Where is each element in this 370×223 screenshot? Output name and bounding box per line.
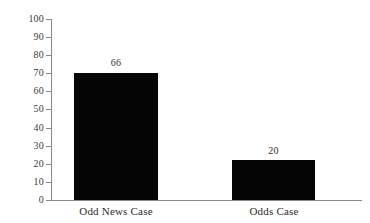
y-axis-tick-30: 30 bbox=[0, 141, 44, 151]
bar-value-label: 66 bbox=[74, 58, 158, 68]
y-axis-tick-80: 80 bbox=[0, 50, 44, 60]
y-axis-tick-label: 60 bbox=[2, 86, 44, 96]
y-axis-line bbox=[51, 19, 52, 200]
bar-odds-case bbox=[232, 160, 315, 200]
y-axis-tick-100: 100 bbox=[0, 14, 44, 24]
y-axis-tick-0: 0 bbox=[0, 195, 44, 205]
x-axis-category-label-odds-case: Odds Case bbox=[214, 205, 334, 217]
x-axis-line bbox=[51, 200, 362, 201]
y-axis-tick-70: 70 bbox=[0, 68, 44, 78]
y-axis-tick-label: 70 bbox=[2, 68, 44, 78]
y-axis-tick-20: 20 bbox=[0, 159, 44, 169]
y-axis-tick-label: 40 bbox=[2, 123, 44, 133]
y-axis-tick-10: 10 bbox=[0, 177, 44, 187]
y-axis-tick-label: 0 bbox=[2, 195, 44, 205]
y-axis-tick-label: 20 bbox=[2, 159, 44, 169]
y-axis-tick-90: 90 bbox=[0, 32, 44, 42]
bar-odd-news-case bbox=[74, 73, 158, 200]
y-axis-tick-label: 10 bbox=[2, 177, 44, 187]
y-axis-tick-label: 90 bbox=[2, 32, 44, 42]
y-axis-tick-label: 80 bbox=[2, 50, 44, 60]
y-axis-tick-label: 50 bbox=[2, 104, 44, 114]
bar-value-label: 20 bbox=[232, 146, 315, 156]
bar-chart: 100 90 80 70 60 50 40 30 bbox=[0, 0, 370, 223]
y-axis-tick-label: 100 bbox=[2, 14, 44, 24]
y-axis-tick-50: 50 bbox=[0, 104, 44, 114]
y-axis-tick-label: 30 bbox=[2, 141, 44, 151]
x-axis-category-label-odd-news-case: Odd News Case bbox=[56, 205, 176, 217]
y-axis-tick-40: 40 bbox=[0, 123, 44, 133]
y-axis-tick-60: 60 bbox=[0, 86, 44, 96]
